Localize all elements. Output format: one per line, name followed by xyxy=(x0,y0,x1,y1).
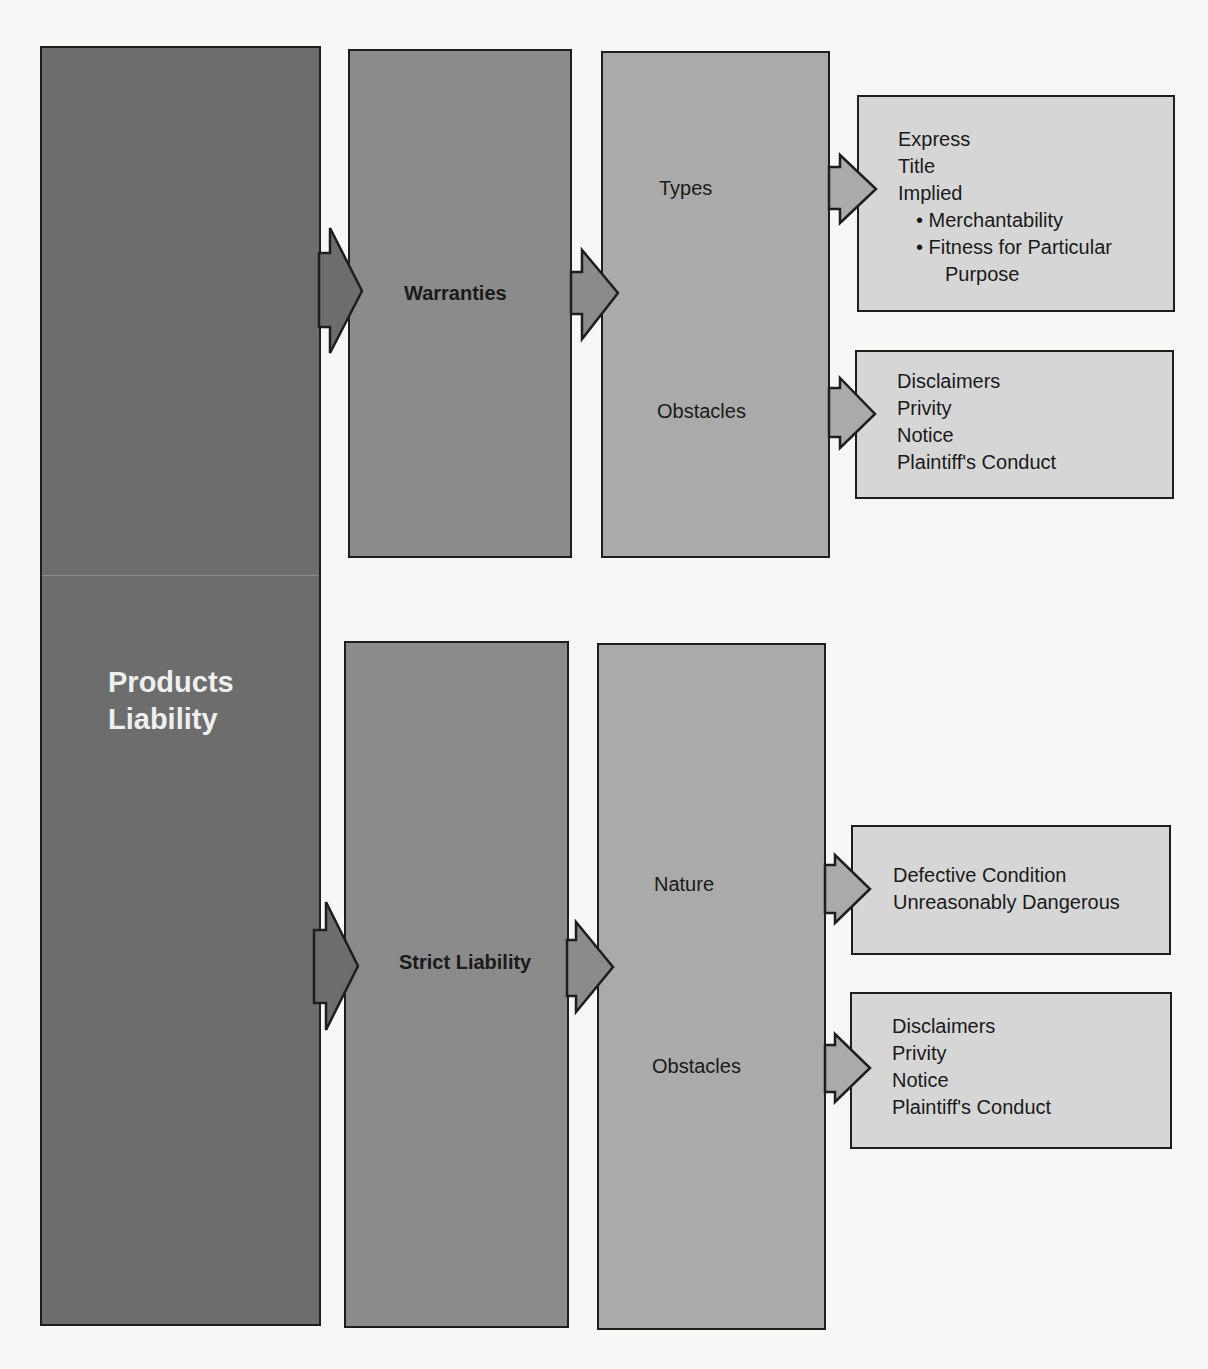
detail-item: Notice xyxy=(897,422,1056,449)
detail-item: Privity xyxy=(897,395,1056,422)
detail-item: Plaintiff's Conduct xyxy=(892,1094,1051,1121)
detail-item: Notice xyxy=(892,1067,1051,1094)
detail-item: Disclaimers xyxy=(892,1013,1051,1040)
branch-label-warranties: Warranties xyxy=(404,282,507,305)
detail-item: Plaintiff's Conduct xyxy=(897,449,1056,476)
detail-list-strict-nature: Defective Condition Unreasonably Dangero… xyxy=(893,862,1120,916)
detail-item: Disclaimers xyxy=(897,368,1056,395)
aspect-label-strict-obstacles: Obstacles xyxy=(652,1055,741,1078)
detail-item: Title xyxy=(898,153,1112,180)
branch-label-strict-liability: Strict Liability xyxy=(399,951,531,974)
aspect-label-types: Types xyxy=(659,177,712,200)
detail-item: Defective Condition xyxy=(893,862,1120,889)
detail-list-strict-obstacles: Disclaimers Privity Notice Plaintiff's C… xyxy=(892,1013,1051,1121)
detail-item: Privity xyxy=(892,1040,1051,1067)
detail-item: Implied xyxy=(898,180,1112,207)
aspect-label-warranty-obstacles: Obstacles xyxy=(657,400,746,423)
aspect-label-nature: Nature xyxy=(654,873,714,896)
detail-item: Unreasonably Dangerous xyxy=(893,889,1120,916)
detail-list-warranty-obstacles: Disclaimers Privity Notice Plaintiff's C… xyxy=(897,368,1056,476)
detail-list-warranty-types: Express Title Implied • Merchantability … xyxy=(898,126,1112,288)
detail-subitem: • Merchantability xyxy=(898,207,1112,234)
detail-item: Express xyxy=(898,126,1112,153)
detail-subitem: • Fitness for Particular xyxy=(898,234,1112,261)
detail-subitem-continued: Purpose xyxy=(898,261,1112,288)
